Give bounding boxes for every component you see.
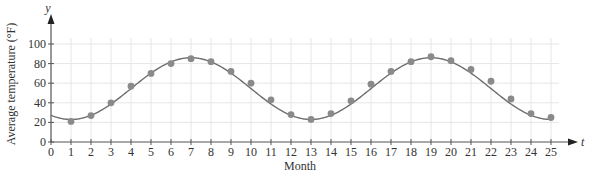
data-point [68, 118, 75, 125]
x-axis-variable: t [581, 135, 585, 149]
x-tick-label: 1 [68, 145, 74, 159]
x-tick-label: 20 [445, 145, 457, 159]
data-point [448, 57, 455, 64]
x-tick-label: 16 [365, 145, 377, 159]
data-point [308, 116, 315, 123]
x-tick-label: 2 [88, 145, 94, 159]
x-tick-label: 6 [168, 145, 174, 159]
fitted-curve [51, 58, 551, 120]
data-point [228, 68, 235, 75]
x-tick-label: 17 [385, 145, 397, 159]
x-tick-label: 24 [525, 145, 537, 159]
x-tick-label: 10 [245, 145, 257, 159]
x-axis-arrow-icon [568, 139, 578, 146]
temperature-chart: 0123456789101112131415161718192021222324… [0, 0, 590, 180]
x-tick-label: 23 [505, 145, 517, 159]
data-point [148, 70, 155, 77]
data-point [368, 81, 375, 88]
x-tick-label: 11 [265, 145, 277, 159]
x-tick-label: 4 [128, 145, 134, 159]
x-tick-label: 9 [228, 145, 234, 159]
x-tick-label: 18 [405, 145, 417, 159]
data-point [428, 53, 435, 60]
y-axis-title: Average temperature (°F) [4, 23, 18, 146]
y-tick-label: 20 [34, 115, 46, 129]
x-tick-label: 15 [345, 145, 357, 159]
data-point [528, 110, 535, 117]
x-tick-label: 13 [305, 145, 317, 159]
grid-lines [51, 38, 559, 142]
y-tick-label: 60 [34, 76, 46, 90]
x-tick-label: 12 [285, 145, 297, 159]
x-tick-label: 21 [465, 145, 477, 159]
data-point [328, 110, 335, 117]
data-point [268, 96, 275, 103]
data-point [248, 80, 255, 87]
data-point [108, 99, 115, 106]
data-point [548, 114, 555, 121]
y-axis-ticks: 020406080100 [28, 37, 54, 149]
y-axis-variable: y [44, 1, 51, 15]
data-point [208, 58, 215, 65]
x-tick-label: 25 [545, 145, 557, 159]
data-point [468, 66, 475, 73]
data-point [188, 55, 195, 62]
x-tick-label: 7 [188, 145, 194, 159]
y-tick-label: 100 [28, 37, 46, 51]
data-point [488, 78, 495, 85]
axes [48, 14, 579, 146]
data-point [348, 97, 355, 104]
x-tick-label: 0 [48, 145, 54, 159]
data-point [288, 111, 295, 118]
x-tick-label: 14 [325, 145, 337, 159]
y-tick-label: 80 [34, 57, 46, 71]
x-tick-label: 19 [425, 145, 437, 159]
x-tick-label: 8 [208, 145, 214, 159]
data-point [508, 95, 515, 102]
x-tick-label: 3 [108, 145, 114, 159]
x-axis-title: Month [284, 159, 316, 173]
data-point [128, 83, 135, 90]
y-tick-label: 40 [34, 96, 46, 110]
data-point [88, 112, 95, 119]
x-tick-label: 5 [148, 145, 154, 159]
y-tick-label: 0 [40, 135, 46, 149]
y-axis-arrow-icon [48, 14, 55, 24]
data-point [388, 68, 395, 75]
x-tick-label: 22 [485, 145, 497, 159]
data-point [408, 58, 415, 65]
data-point [168, 60, 175, 67]
